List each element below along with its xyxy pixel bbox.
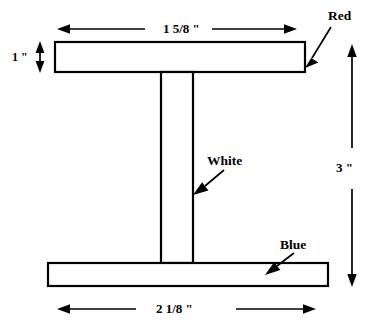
white-leader [193,170,224,195]
top-flange-height-label: 1 " [12,51,28,63]
flange-height-bottom-arrowhead [36,61,45,73]
bottom-flange-part-label: Blue [280,238,306,252]
bottom-flange-shape [48,263,328,286]
top-dim-left-arrowhead [57,24,70,33]
web-part-label: White [207,154,242,168]
total-height-label: 3 " [336,161,353,174]
flange-height-dimension [36,41,45,73]
bottom-dim-left-arrowhead [57,304,70,313]
red-leader [305,27,331,68]
top-dim-right-arrowhead [284,24,297,33]
total-height-bottom-arrowhead [347,274,356,287]
top-flange-part-label: Red [328,9,351,23]
bottom-dim-right-arrowhead [303,304,316,313]
flange-height-top-arrowhead [36,41,45,53]
top-flange-shape [55,42,305,72]
red-leader-line [312,27,331,58]
web-shape [161,72,193,263]
beam-diagram: 1 5/8 " 1 " 3 " 2 1/8 " Red White Blue [0,0,379,333]
total-height-top-arrowhead [347,44,356,57]
bottom-flange-width-label: 2 1/8 " [156,302,193,315]
white-leader-line [205,170,224,186]
red-leader-arrowhead [305,58,318,68]
diagram-canvas [0,0,379,333]
top-flange-width-label: 1 5/8 " [163,22,200,35]
